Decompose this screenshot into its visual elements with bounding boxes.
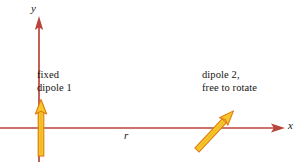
dipole-2-caption-line-1: dipole 2, xyxy=(202,69,240,80)
dipole-1-caption: fixeddipole 1 xyxy=(37,69,72,94)
dipole-2-arrow xyxy=(193,107,238,154)
dipole-1-arrowhead xyxy=(35,100,46,115)
x-axis-label: x xyxy=(288,119,293,131)
dipole-2-caption-line-2: free to rotate xyxy=(202,82,257,93)
dipole-2-highlight xyxy=(198,120,225,149)
dipole-interaction-figure: fixeddipole 1 dipole 2,free to rotate y … xyxy=(0,0,302,162)
dipole-1-caption-line-2: dipole 1 xyxy=(37,82,72,93)
y-axis-label: y xyxy=(31,2,36,14)
separation-label: r xyxy=(124,129,128,141)
dipole-1-caption-line-1: fixed xyxy=(37,69,59,80)
dipole-2-caption: dipole 2,free to rotate xyxy=(202,69,257,94)
